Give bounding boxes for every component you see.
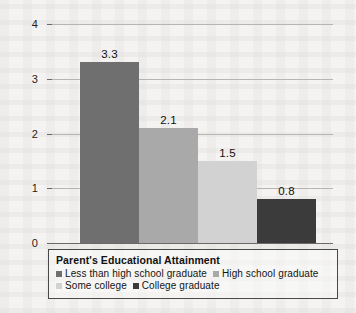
legend-item-0: Less than high school graduate	[56, 268, 207, 279]
axis-baseline	[52, 243, 333, 244]
legend-label-0: Less than high school graduate	[65, 268, 207, 279]
chart-figure: Percentages of children ages ≤17 years w…	[0, 0, 356, 313]
y-axis-tick-labels: 0 1 2 3 4	[0, 24, 48, 243]
legend-swatch-icon-1	[213, 271, 219, 277]
y-tick-label-0: 0	[32, 237, 38, 249]
bar-value-3: 0.8	[257, 185, 316, 197]
legend-row-0: Less than high school graduate High scho…	[56, 268, 331, 279]
y-tick-label-2: 2	[32, 128, 38, 140]
plot-area: 3.3 2.1 1.5 0.8	[52, 24, 333, 243]
y-tick-mark-1	[47, 188, 52, 189]
bar-value-2: 1.5	[198, 147, 257, 159]
y-tick-label-1: 1	[32, 182, 38, 194]
legend-item-2: Some college	[56, 280, 127, 291]
bar-series: 3.3 2.1 1.5 0.8	[80, 24, 316, 243]
legend-swatch-icon-3	[133, 283, 139, 289]
bar-college-graduate	[257, 199, 316, 243]
legend-label-3: College graduate	[142, 280, 220, 291]
bar-some-college	[198, 161, 257, 243]
legend-item-3: College graduate	[133, 280, 220, 291]
bar-value-1: 2.1	[139, 114, 198, 126]
legend-row-1: Some college College graduate	[56, 280, 331, 291]
legend-title: Parent's Educational Attainment	[56, 254, 331, 266]
bar-slot-3: 0.8	[257, 24, 316, 243]
bar-less-than-high-school-graduate	[80, 62, 139, 243]
bar-high-school-graduate	[139, 128, 198, 243]
bar-slot-0: 3.3	[80, 24, 139, 243]
y-tick-label-3: 3	[32, 73, 38, 85]
bar-slot-2: 1.5	[198, 24, 257, 243]
legend-item-1: High school graduate	[213, 268, 319, 279]
legend: Parent's Educational Attainment Less tha…	[48, 249, 338, 299]
y-tick-mark-3	[47, 79, 52, 80]
y-tick-mark-4	[47, 24, 52, 25]
legend-label-2: Some college	[65, 280, 127, 291]
bar-value-0: 3.3	[80, 48, 139, 60]
legend-swatch-icon-2	[56, 283, 62, 289]
y-tick-mark-2	[47, 134, 52, 135]
legend-label-1: High school graduate	[222, 268, 319, 279]
y-tick-mark-0	[47, 243, 52, 244]
legend-swatch-icon-0	[56, 271, 62, 277]
bar-slot-1: 2.1	[139, 24, 198, 243]
y-tick-label-4: 4	[32, 18, 38, 30]
